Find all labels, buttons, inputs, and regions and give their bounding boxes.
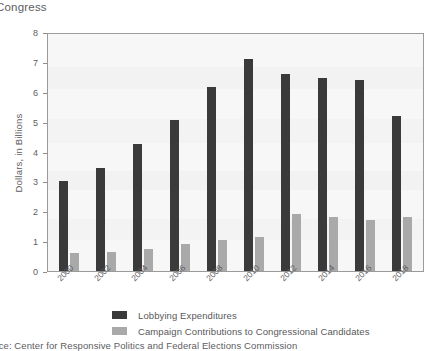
bars-layer: [48, 34, 423, 271]
bar-group: [273, 34, 310, 271]
bar: [59, 181, 68, 271]
bar-group: [87, 34, 124, 271]
x-tick-slot: 2018: [385, 272, 422, 302]
y-tick-label: 7: [33, 58, 38, 68]
legend-swatch-icon: [112, 327, 127, 335]
x-tick-slot: 2002: [86, 272, 123, 302]
x-tick-slot: 2012: [273, 272, 310, 302]
x-tick-slot: 2016: [347, 272, 384, 302]
bar-group: [50, 34, 87, 271]
bar: [392, 116, 401, 271]
y-tick-label: 3: [33, 177, 38, 187]
y-tick-label: 8: [33, 28, 38, 38]
bar: [355, 80, 364, 271]
legend-item-campaign: Campaign Contributions to Congressional …: [112, 323, 370, 339]
bar: [318, 78, 327, 271]
y-axis-title: Dollars, in Billions: [13, 83, 24, 223]
y-tick-label: 4: [33, 148, 38, 158]
legend-label: Lobbying Expenditures: [138, 310, 237, 321]
bar: [96, 168, 105, 271]
y-tick-label: 5: [33, 118, 38, 128]
x-tick-slot: 2006: [161, 272, 198, 302]
bar: [133, 144, 142, 271]
x-axis: 2000200220042006200820102012201420162018: [47, 272, 424, 302]
bar-group: [235, 34, 272, 271]
chart-title: Congress: [0, 1, 47, 13]
chart-legend: Lobbying Expenditures Campaign Contribut…: [112, 307, 370, 339]
plot-area: [47, 33, 424, 272]
x-tick-slot: 2010: [235, 272, 272, 302]
source-note: urce: Center for Responsive Politics and…: [0, 340, 297, 351]
bar-group: [384, 34, 421, 271]
bar-group: [198, 34, 235, 271]
y-tick-label: 0: [33, 267, 38, 277]
y-tick-label: 6: [33, 88, 38, 98]
legend-label: Campaign Contributions to Congressional …: [138, 326, 370, 337]
bar: [292, 214, 301, 271]
x-tick-slot: 2014: [310, 272, 347, 302]
bar-group: [124, 34, 161, 271]
x-tick-slot: 2000: [49, 272, 86, 302]
x-tick-slot: 2004: [124, 272, 161, 302]
bar: [170, 120, 179, 271]
y-axis: Dollars, in Billions 012345678: [0, 33, 47, 272]
x-tick-slot: 2008: [198, 272, 235, 302]
bar-group: [161, 34, 198, 271]
bar: [281, 74, 290, 271]
bar-group: [310, 34, 347, 271]
y-tick-label: 1: [33, 237, 38, 247]
y-tick-label: 2: [33, 207, 38, 217]
legend-item-lobbying: Lobbying Expenditures: [112, 307, 370, 323]
bar: [244, 59, 253, 271]
bar: [207, 87, 216, 271]
legend-swatch-icon: [112, 311, 127, 319]
chart-figure: Congress Dollars, in Billions 012345678 …: [0, 0, 433, 351]
bar-group: [347, 34, 384, 271]
